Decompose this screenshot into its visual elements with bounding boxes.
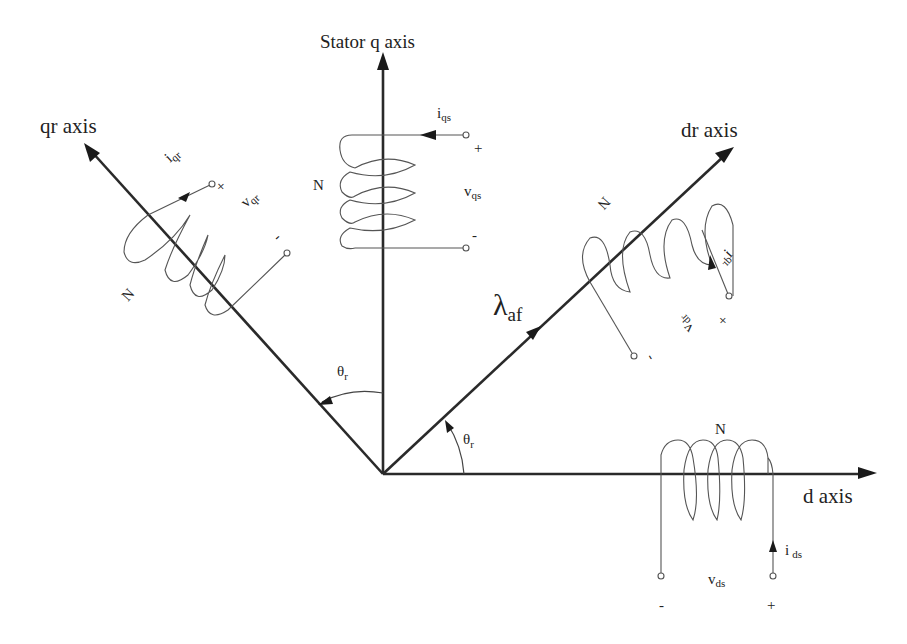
- qr-coil: [124, 215, 285, 315]
- reference-frame-diagram: Stator q axis qr axis dr axis d axis λaf…: [0, 0, 907, 644]
- axes: [84, 52, 877, 479]
- lambda-af-label: λaf: [493, 288, 523, 325]
- qr-minus-label: -: [269, 229, 283, 244]
- qr-turns-label: N: [118, 285, 137, 304]
- ds-terminal-plus: [770, 573, 776, 579]
- dr-turns-label: N: [594, 194, 613, 213]
- d-axis-arrowhead: [858, 467, 877, 479]
- theta-r-arc-lower-arrowhead: [445, 420, 454, 433]
- qs-current-label: iqs: [437, 105, 451, 123]
- ds-voltage-label: vds: [708, 571, 725, 589]
- labels: Stator q axis qr axis dr axis d axis λaf…: [40, 31, 853, 613]
- qr-current-label: iqr: [161, 144, 183, 167]
- qr-axis-line: [92, 152, 383, 474]
- qs-voltage-label: vqs: [464, 183, 481, 201]
- lambda-subscript: af: [508, 304, 523, 325]
- qs-minus-label: -: [472, 227, 477, 243]
- ds-minus-label: -: [659, 597, 664, 613]
- ds-turns-label: N: [715, 421, 726, 437]
- ds-coil: [661, 440, 768, 520]
- qr-voltage-label: vqr: [237, 187, 262, 212]
- ds-plus-label: +: [767, 597, 775, 613]
- dr-axis-line: [383, 156, 724, 474]
- qs-coil: [340, 159, 415, 248]
- dr-terminal-minus: [631, 353, 637, 359]
- qs-current-arrowhead: [420, 130, 436, 140]
- qs-plus-label: +: [474, 140, 482, 156]
- dr-terminal-plus: [726, 293, 732, 299]
- qr-current-arrowhead: [178, 192, 190, 202]
- dr-left-lead: [590, 282, 632, 353]
- theta-r-lower-label: θr: [463, 431, 474, 450]
- dr-axis-label: dr axis: [681, 118, 738, 142]
- ds-current-arrowhead: [769, 540, 777, 552]
- qr-top-lead: [148, 185, 210, 215]
- qr-terminal-minus: [284, 250, 290, 256]
- qs-terminal-minus: [463, 245, 469, 251]
- dr-plus-label: +: [714, 312, 732, 329]
- stator-q-axis-label: Stator q axis: [320, 31, 415, 52]
- dr-voltage-label: vdr: [673, 312, 698, 337]
- winding-qr: [124, 181, 290, 315]
- theta-r-upper-label: θr: [337, 363, 348, 382]
- winding-dr: [583, 204, 734, 359]
- qr-plus-label: +: [212, 178, 229, 196]
- ds-right-bridge: [768, 458, 773, 474]
- ds-current-label: ids: [785, 542, 802, 560]
- ds-terminal-minus: [658, 573, 664, 579]
- dr-minus-label: -: [643, 351, 659, 363]
- qs-terminal-plus: [463, 132, 469, 138]
- winding-qs: [340, 130, 469, 251]
- qs-turns-label: N: [313, 177, 324, 193]
- angle-arcs: [318, 391, 464, 474]
- d-axis-label: d axis: [803, 484, 853, 508]
- qs-top-lead: [340, 135, 463, 168]
- stator-q-arrowhead: [377, 52, 389, 70]
- qr-axis-label: qr axis: [40, 114, 97, 138]
- winding-ds: [658, 440, 777, 579]
- lambda-symbol: λ: [493, 288, 508, 321]
